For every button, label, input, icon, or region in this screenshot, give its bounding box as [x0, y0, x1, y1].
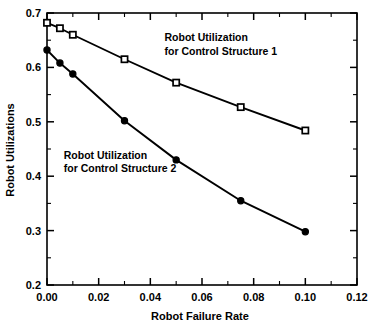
x-tick-label: 0.06 — [191, 291, 212, 303]
chart-container: 0.000.020.040.060.080.100.12 0.20.30.40.… — [0, 0, 378, 328]
y-tick-label: 0.2 — [26, 279, 41, 291]
robot-utilization-line-chart: 0.000.020.040.060.080.100.12 0.20.30.40.… — [0, 0, 378, 328]
series-1-marker — [57, 25, 63, 31]
y-tick-label: 0.7 — [26, 7, 41, 19]
series-2-marker — [44, 47, 50, 53]
annotation-structure-1-line-1: Robot Utilization — [165, 31, 248, 43]
series-1-marker — [238, 104, 244, 110]
series-1-marker — [121, 56, 127, 62]
series-2-marker — [238, 198, 244, 204]
x-tick-label: 0.02 — [88, 291, 109, 303]
series-2-marker — [70, 71, 76, 77]
series-1-marker — [173, 80, 179, 86]
y-axis-title: Robot Utilizations — [4, 103, 16, 197]
x-tick-label: 0.08 — [243, 291, 264, 303]
x-tick-label: 0.12 — [346, 291, 367, 303]
series-2-marker — [57, 60, 63, 66]
annotation-structure-2-line-1: Robot Utilization — [64, 149, 147, 161]
series-2-marker — [121, 118, 127, 124]
annotation-structure-2-line-2: for Control Structure 2 — [64, 162, 177, 174]
series-2-marker — [302, 229, 308, 235]
y-tick-label: 0.5 — [26, 116, 41, 128]
x-tick-label: 0.04 — [140, 291, 162, 303]
y-tick-label: 0.6 — [26, 61, 41, 73]
series-1-marker — [302, 127, 308, 133]
x-tick-label: 0.10 — [295, 291, 316, 303]
series-1-marker — [44, 20, 50, 26]
x-tick-label: 0.00 — [36, 291, 57, 303]
series-1-marker — [70, 32, 76, 38]
y-tick-label: 0.3 — [26, 225, 41, 237]
x-axis-title: Robot Failure Rate — [151, 310, 249, 322]
annotation-structure-1-line-2: for Control Structure 1 — [165, 45, 278, 57]
y-tick-label: 0.4 — [26, 170, 42, 182]
